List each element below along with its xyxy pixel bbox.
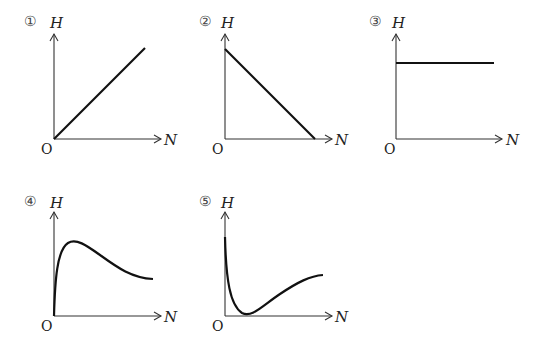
graph-number: ①	[24, 13, 37, 29]
origin-label: O	[212, 318, 223, 334]
x-axis-label: N	[163, 131, 178, 149]
graph-4: ④ H N O	[24, 193, 178, 334]
origin-label: O	[41, 318, 52, 334]
y-axis-label: H	[49, 14, 64, 32]
graph-number: ②	[199, 13, 212, 29]
graph-5: ⑤ H N O	[199, 193, 349, 334]
graph-number: ⑤	[199, 193, 212, 209]
x-axis-label: N	[334, 131, 349, 149]
curve	[54, 241, 153, 316]
y-axis-label: H	[220, 194, 235, 212]
curve	[225, 49, 315, 139]
origin-label: O	[384, 141, 395, 157]
graphs-figure: ① H N O ② H N O ③ H N O ④ H N O ⑤	[0, 0, 547, 357]
graph-3: ③ H N O	[369, 13, 520, 157]
x-axis-label: N	[505, 131, 520, 149]
graph-number: ③	[369, 13, 382, 29]
y-axis-label: H	[220, 14, 235, 32]
graph-1: ① H N O	[24, 13, 178, 157]
graph-number: ④	[24, 193, 37, 209]
x-axis-label: N	[163, 308, 178, 326]
origin-label: O	[41, 141, 52, 157]
curve	[225, 237, 323, 314]
curve	[54, 48, 145, 139]
y-axis-label: H	[49, 194, 64, 212]
origin-label: O	[212, 141, 223, 157]
x-axis-label: N	[334, 308, 349, 326]
y-axis-label: H	[391, 14, 406, 32]
graph-2: ② H N O	[199, 13, 349, 157]
